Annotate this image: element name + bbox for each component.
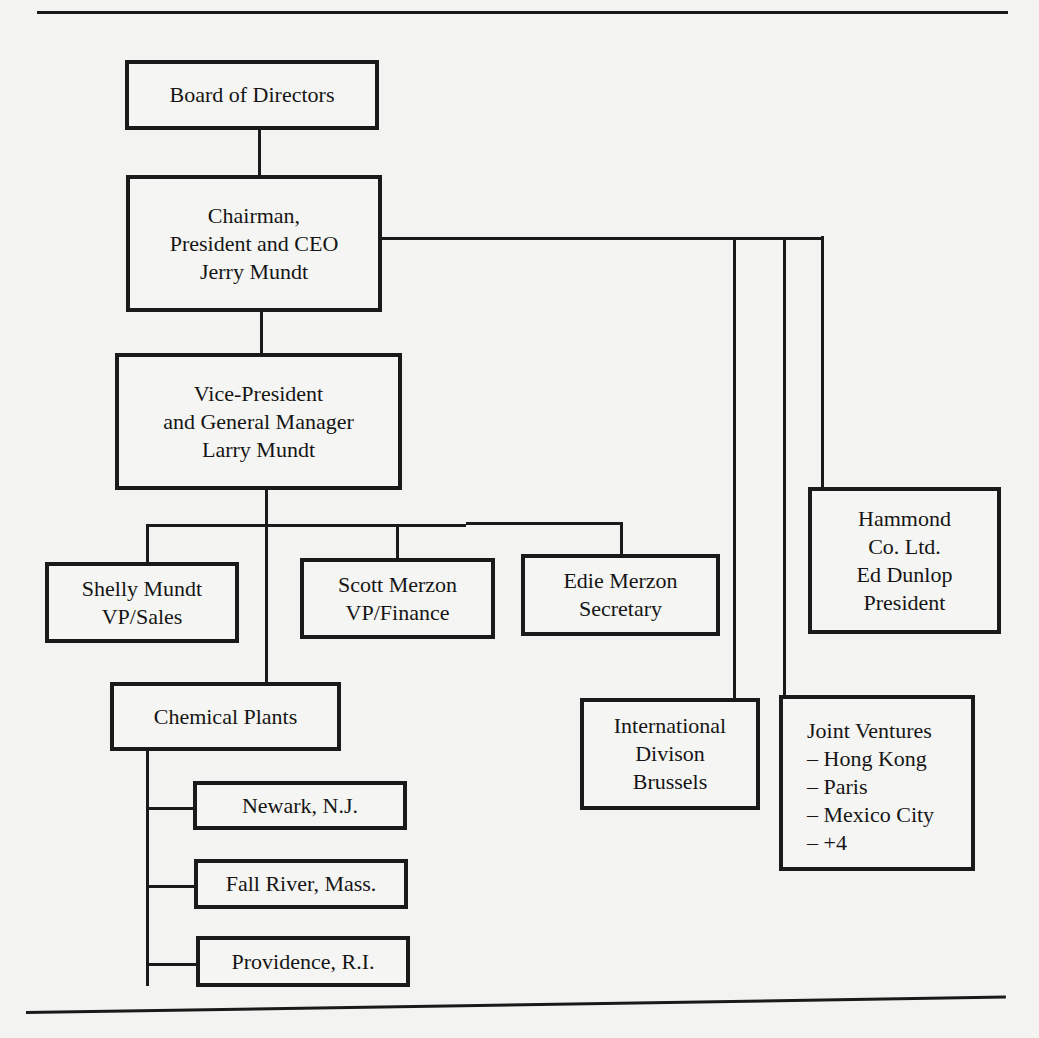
node-plant-providence: Providence, R.I. [196,936,410,987]
node-label: Vice-President and General Manager Larry… [163,380,354,464]
node-international-division: International Divison Brussels [580,698,760,810]
connector-vp-down [265,487,268,683]
node-label: International Divison Brussels [614,712,726,796]
connector-reports-bar-right [466,522,623,525]
connector-hammond [821,236,824,489]
node-label: Newark, N.J. [242,792,358,820]
connector-ceo-right [381,237,824,240]
node-plant-fall-river: Fall River, Mass. [194,859,408,909]
node-label: Shelly Mundt VP/Sales [82,575,202,631]
node-ceo: Chairman, President and CEO Jerry Mundt [126,175,382,312]
node-joint-ventures: Joint Ventures – Hong Kong – Paris – Mex… [779,695,975,871]
node-secretary: Edie Merzon Secretary [521,554,720,636]
connector-scott [396,524,399,560]
node-label: Edie Merzon Secretary [563,567,677,623]
top-rule [37,11,1008,14]
node-hammond: Hammond Co. Ltd. Ed Dunlop President [808,487,1001,634]
connector-plants-trunk [146,749,149,986]
bottom-rule [26,996,1006,1014]
connector-reports-bar [146,524,466,527]
node-label: Chemical Plants [154,703,298,731]
connector-ceo-vp [260,310,263,354]
node-chemical-plants: Chemical Plants [110,682,341,751]
node-vp-general-manager: Vice-President and General Manager Larry… [115,353,402,490]
connector-international [733,237,736,700]
connector-shelly [146,524,149,563]
node-label: Chairman, President and CEO Jerry Mundt [170,202,339,286]
node-plant-newark: Newark, N.J. [193,781,407,830]
node-label: Hammond Co. Ltd. Ed Dunlop President [857,505,953,617]
connector-newark [146,807,195,810]
connector-providence [146,963,198,966]
node-vp-sales: Shelly Mundt VP/Sales [45,562,239,643]
node-label: Board of Directors [170,81,335,109]
node-board-of-directors: Board of Directors [125,60,379,130]
node-label: Fall River, Mass. [226,870,377,898]
node-label: Scott Merzon VP/Finance [338,571,457,627]
node-vp-finance: Scott Merzon VP/Finance [300,558,495,639]
connector-board-ceo [258,128,261,176]
connector-joint-ventures [783,237,786,697]
node-label: Joint Ventures – Hong Kong – Paris – Mex… [783,699,934,857]
connector-fall-river [146,885,196,888]
node-label: Providence, R.I. [232,948,375,976]
connector-edie [620,522,623,556]
